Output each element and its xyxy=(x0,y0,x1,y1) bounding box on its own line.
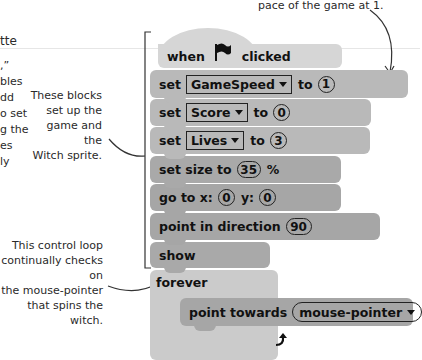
target-name: mouse-pointer xyxy=(299,305,402,320)
chevron-down-icon xyxy=(279,82,287,87)
y-label: y: xyxy=(241,190,254,205)
set-size-label: set size to xyxy=(159,162,232,177)
variable-name: Lives xyxy=(191,133,227,148)
loop-arrow-icon xyxy=(274,332,288,351)
go-to-xy-block[interactable]: go to x: 0 y: 0 xyxy=(150,184,341,211)
value-input[interactable]: 3 xyxy=(270,132,287,149)
variable-dropdown[interactable]: Score xyxy=(186,103,248,122)
block-notch xyxy=(164,267,186,273)
variable-dropdown[interactable]: GameSpeed xyxy=(186,75,292,94)
target-dropdown[interactable]: mouse-pointer xyxy=(292,302,422,322)
point-towards-block[interactable]: point towards mouse-pointer xyxy=(180,298,413,326)
to-label: to xyxy=(254,105,269,120)
set-size-block[interactable]: set size to 35 % xyxy=(150,156,341,183)
block-notch xyxy=(164,153,186,159)
clicked-label: clicked xyxy=(242,49,291,64)
chevron-down-icon xyxy=(407,310,415,315)
set-gamespeed-block[interactable]: set GameSpeed to 1 xyxy=(150,70,408,98)
set-label: set xyxy=(159,133,181,148)
forever-label: forever xyxy=(156,275,207,290)
chevron-down-icon xyxy=(231,138,239,143)
block-notch xyxy=(164,125,186,131)
show-label: show xyxy=(159,248,195,263)
show-block[interactable]: show xyxy=(150,242,270,268)
value-input[interactable]: 0 xyxy=(273,104,290,121)
block-notch xyxy=(164,210,186,216)
when-label: when xyxy=(167,49,205,64)
variable-name: GameSpeed xyxy=(191,77,275,92)
block-notch xyxy=(164,97,186,103)
point-towards-label: point towards xyxy=(189,305,287,320)
point-in-direction-label: point in direction xyxy=(159,219,281,234)
value-input[interactable]: 1 xyxy=(318,76,335,93)
variable-name: Score xyxy=(191,105,231,120)
when-flag-clicked-block[interactable]: when clicked xyxy=(158,44,342,68)
set-score-block[interactable]: set Score to 0 xyxy=(150,99,371,126)
point-in-direction-block[interactable]: point in direction 90 xyxy=(150,213,380,240)
x-input[interactable]: 0 xyxy=(218,189,235,206)
y-input[interactable]: 0 xyxy=(259,189,276,206)
to-label: to xyxy=(250,133,265,148)
block-notch xyxy=(194,325,216,331)
chevron-down-icon xyxy=(235,110,243,115)
to-label: to xyxy=(298,77,313,92)
percent-label: % xyxy=(267,162,280,177)
block-notch xyxy=(164,182,186,188)
variable-dropdown[interactable]: Lives xyxy=(186,131,244,150)
block-notch xyxy=(164,239,186,245)
set-lives-block[interactable]: set Lives to 3 xyxy=(150,127,370,154)
set-label: set xyxy=(159,77,181,92)
set-label: set xyxy=(159,105,181,120)
direction-input[interactable]: 90 xyxy=(286,218,312,235)
size-input[interactable]: 35 xyxy=(237,161,261,178)
green-flag-icon xyxy=(214,42,232,65)
go-to-x-label: go to x: xyxy=(159,190,213,205)
